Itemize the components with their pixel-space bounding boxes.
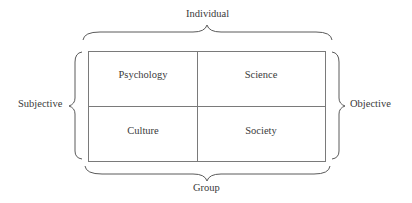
axis-label-bottom: Group [193, 182, 220, 193]
quadrant-society: Society [245, 125, 277, 136]
axis-label-left: Subjective [18, 98, 62, 109]
bottom-brace [85, 166, 330, 181]
right-brace [332, 52, 345, 159]
left-brace [69, 52, 82, 159]
axis-label-top: Individual [186, 8, 229, 19]
quadrant-science: Science [245, 69, 278, 80]
top-brace [83, 25, 332, 40]
quadrant-culture: Culture [127, 125, 159, 136]
quadrant-psychology: Psychology [118, 69, 167, 80]
axis-label-right: Objective [350, 98, 391, 109]
